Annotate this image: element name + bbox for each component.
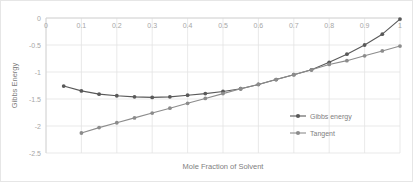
data-point <box>380 32 384 36</box>
data-point <box>133 116 137 120</box>
data-point <box>363 54 367 58</box>
y-tick-label: -2.5 <box>29 150 41 157</box>
data-point <box>203 92 207 96</box>
x-tick-label: 0.1 <box>77 22 87 29</box>
data-point <box>80 131 84 135</box>
data-point <box>239 87 243 91</box>
x-tick-label: 0.5 <box>218 22 228 29</box>
data-point <box>186 93 190 97</box>
x-tick-label: 0.9 <box>360 22 370 29</box>
x-axis-title: Mole Fraction of Solvent <box>183 162 265 171</box>
x-tick-label: 0.3 <box>147 22 157 29</box>
legend-label-1[interactable]: Gibbs energy <box>310 113 352 121</box>
x-tick-label: 0.4 <box>183 22 193 29</box>
data-point <box>62 84 66 88</box>
data-point <box>398 17 402 21</box>
data-point <box>345 59 349 63</box>
chart-container: 0-0.5-1-1.5-2-2.500.10.20.30.40.50.60.70… <box>0 0 413 182</box>
x-tick-label: 0.7 <box>289 22 299 29</box>
data-point <box>345 52 349 56</box>
data-point <box>80 89 84 93</box>
y-tick-label: 0 <box>37 15 41 22</box>
data-point <box>327 63 331 67</box>
x-tick-label: 0.8 <box>324 22 334 29</box>
data-point <box>363 43 367 47</box>
data-point <box>97 92 101 96</box>
data-point <box>168 106 172 110</box>
x-tick-label: 0.6 <box>254 22 264 29</box>
data-point <box>274 78 278 82</box>
x-tick-label: 0 <box>44 22 48 29</box>
data-point <box>203 97 207 101</box>
legend-marker-2 <box>296 131 300 135</box>
data-point <box>115 121 119 125</box>
data-point <box>380 49 384 53</box>
line-chart: 0-0.5-1-1.5-2-2.500.10.20.30.40.50.60.70… <box>1 1 413 182</box>
data-point <box>97 126 101 130</box>
legend-marker-1 <box>296 114 300 118</box>
y-tick-label: -2 <box>35 123 41 130</box>
data-point <box>398 44 402 48</box>
data-point <box>168 95 172 99</box>
y-axis-title: Gibbs Energy <box>10 63 19 109</box>
x-tick-label: 1 <box>398 22 402 29</box>
data-point <box>150 95 154 99</box>
data-point <box>150 111 154 115</box>
data-point <box>133 95 137 99</box>
data-point <box>186 101 190 105</box>
data-point <box>257 83 261 87</box>
x-tick-label: 0.2 <box>112 22 122 29</box>
legend-label-2[interactable]: Tangent <box>310 130 335 138</box>
y-tick-label: -0.5 <box>29 42 41 49</box>
y-tick-label: -1 <box>35 69 41 76</box>
data-point <box>292 73 296 77</box>
data-point <box>221 92 225 96</box>
data-point <box>115 94 119 98</box>
series-line-1 <box>64 19 400 97</box>
data-point <box>310 68 314 72</box>
y-tick-label: -1.5 <box>29 96 41 103</box>
